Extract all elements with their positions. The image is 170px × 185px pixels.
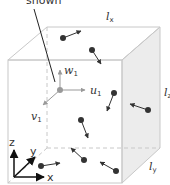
coordinate-axes: z y x — [9, 136, 54, 184]
ly-label: ly — [149, 160, 157, 174]
particle — [100, 162, 119, 174]
v1-arrow-icon — [43, 90, 60, 105]
w1-label: w1 — [64, 64, 78, 78]
z-axis-label: z — [9, 136, 15, 149]
u1-label: u1 — [90, 84, 102, 98]
v1-label: v1 — [31, 110, 42, 124]
shown-label: shown — [26, 0, 61, 7]
particle — [60, 31, 81, 41]
leader-line — [34, 9, 55, 82]
y-axis-arrow-icon — [14, 157, 35, 177]
particle — [38, 163, 60, 169]
particle — [78, 117, 88, 138]
x-axis-label: x — [47, 171, 54, 184]
lx-label: lx — [106, 10, 114, 24]
box-side-face — [122, 27, 160, 183]
particle — [71, 148, 87, 163]
particle — [107, 90, 117, 111]
particle — [89, 47, 101, 64]
y-axis-label: y — [30, 145, 37, 158]
gas-particles-box-diagram: shown lx lz ly u1 w1 v1 — [0, 0, 170, 185]
lz-label: lz — [164, 86, 170, 100]
